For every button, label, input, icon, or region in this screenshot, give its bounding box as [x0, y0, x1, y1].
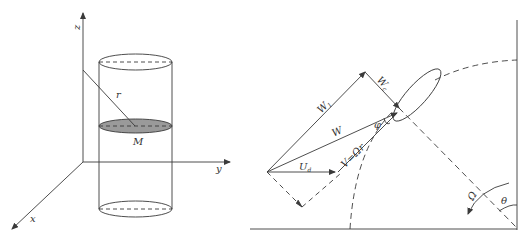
- y-axis-label: y: [215, 163, 222, 174]
- blade-ellipse: [387, 63, 447, 127]
- z-axis-label: z: [71, 24, 82, 31]
- radial-dashed-line: [399, 108, 517, 228]
- velocity-triangle-figure: [250, 20, 517, 230]
- radius-line: [83, 70, 135, 126]
- inner-path-arc: [350, 112, 392, 229]
- v-label: V=Ωr: [339, 141, 368, 170]
- section-label: M: [132, 136, 144, 147]
- cylinder-figure: [12, 13, 230, 229]
- omega-label: Ω: [465, 190, 479, 204]
- phi-label: φ: [374, 119, 381, 130]
- construction-arrowhead: [296, 200, 302, 207]
- radius-label: r: [116, 89, 122, 100]
- wc-label: Wc: [374, 74, 393, 93]
- theta-label: θ: [501, 195, 507, 206]
- diagram-canvas: z r M y x W1 Wc W: [0, 0, 526, 243]
- velocity-labels: W1 Wc W φ V=Ωr Ud Ω θ: [299, 74, 507, 206]
- construction-dashed-2: [302, 174, 340, 207]
- x-axis: [12, 162, 83, 229]
- w-label: W: [330, 124, 345, 139]
- construction-dashed-1: [267, 172, 302, 207]
- w1-label: W1: [315, 97, 333, 115]
- ud-label: Ud: [299, 161, 311, 173]
- outer-rotor-arc: [435, 60, 517, 80]
- x-axis-label: x: [30, 213, 36, 224]
